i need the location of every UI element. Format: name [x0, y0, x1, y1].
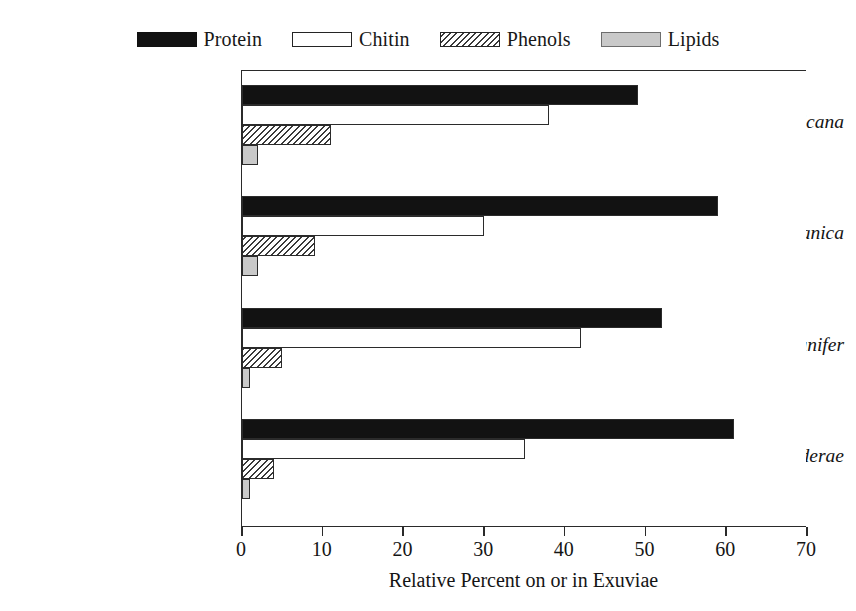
bar-lipids-1	[242, 145, 258, 165]
x-tick-mark-10	[322, 527, 324, 536]
bar-chitin-4	[242, 439, 525, 459]
x-tick-label-50: 50	[635, 538, 655, 560]
legend-label-lipids: Lipids	[668, 29, 720, 49]
bar-group-2	[242, 196, 806, 276]
lipids-swatch-icon	[601, 32, 661, 47]
bar-chitin-3	[242, 328, 581, 348]
x-tick-mark-70	[806, 527, 808, 536]
bar-protein-1	[242, 85, 638, 105]
x-tick-mark-40	[564, 527, 566, 536]
x-tick-label-60: 60	[715, 538, 735, 560]
bar-group-4	[242, 419, 806, 499]
x-tick-label-30: 30	[473, 538, 493, 560]
bar-phenols-2	[242, 236, 315, 256]
x-tick-label-20: 20	[392, 538, 412, 560]
bar-phenols-3	[242, 348, 282, 368]
x-tick-label-10: 10	[312, 538, 332, 560]
bar-phenols-1	[242, 125, 331, 145]
chart-legend: Protein Chitin Phenols Lipids	[0, 26, 856, 52]
x-tick-mark-20	[402, 527, 404, 536]
legend-label-protein: Protein	[204, 29, 262, 49]
bar-group-3	[242, 308, 806, 388]
plot-area	[241, 70, 806, 527]
bar-chitin-2	[242, 216, 484, 236]
legend-item-phenols: Phenols	[440, 29, 571, 49]
x-tick-label-0: 0	[236, 538, 246, 560]
bar-lipids-3	[242, 368, 250, 388]
legend-label-chitin: Chitin	[359, 29, 410, 49]
x-tick-mark-30	[483, 527, 485, 536]
legend-item-lipids: Lipids	[601, 29, 720, 49]
legend-item-protein: Protein	[137, 29, 262, 49]
bar-group-1	[242, 85, 806, 165]
bar-protein-3	[242, 308, 662, 328]
x-tick-label-40: 40	[554, 538, 574, 560]
bar-lipids-2	[242, 256, 258, 276]
phenols-swatch-icon	[440, 32, 500, 47]
protein-swatch-icon	[137, 32, 197, 47]
x-tick-label-70: 70	[796, 538, 816, 560]
x-tick-mark-60	[725, 527, 727, 536]
x-tick-mark-0	[241, 527, 243, 536]
x-axis-ticks: 010203040506070	[241, 527, 806, 537]
x-axis-title: Relative Percent on or in Exuviae	[241, 568, 806, 592]
bar-phenols-4	[242, 459, 274, 479]
legend-item-chitin: Chitin	[292, 29, 410, 49]
bar-lipids-4	[242, 479, 250, 499]
bar-chitin-1	[242, 105, 549, 125]
x-tick-mark-50	[645, 527, 647, 536]
chitin-swatch-icon	[292, 32, 352, 47]
bar-protein-2	[242, 196, 718, 216]
legend-label-phenols: Phenols	[507, 29, 571, 49]
bar-protein-4	[242, 419, 734, 439]
